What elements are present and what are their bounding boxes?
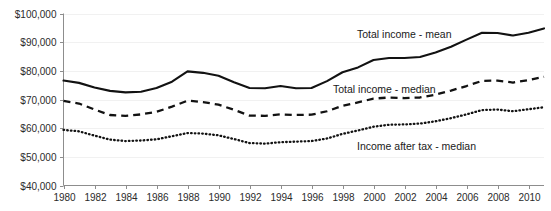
x-axis-tick-label: 1982 (84, 192, 107, 203)
series-label-1: Total income - median (333, 83, 436, 95)
x-axis-tick-label: 1980 (53, 192, 76, 203)
x-axis-tick-label: 2006 (456, 192, 479, 203)
x-axis-tick-label: 1990 (208, 192, 231, 203)
x-axis-tick-label: 2008 (487, 192, 510, 203)
x-axis-tick-label: 1994 (270, 192, 293, 203)
x-axis-tick-label: 1992 (239, 192, 262, 203)
chart-background (0, 0, 551, 211)
y-axis-tick-label: $100,000 (15, 9, 57, 20)
y-axis-tick-label: $70,000 (20, 95, 57, 106)
y-axis-tick-label: $80,000 (20, 66, 57, 77)
y-axis-tick-label: $50,000 (20, 152, 57, 163)
y-axis-tick-label: $40,000 (20, 181, 57, 192)
x-axis-tick-label: 2004 (425, 192, 448, 203)
x-axis-tick-label: 1998 (332, 192, 355, 203)
series-label-0: Total income - mean (357, 28, 452, 40)
y-axis-tick-label: $60,000 (20, 123, 57, 134)
chart-container: $100,000$90,000$80,000$70,000$60,000$50,… (0, 0, 551, 211)
income-trend-line-chart: $100,000$90,000$80,000$70,000$60,000$50,… (0, 0, 551, 211)
x-axis-tick-label: 2010 (518, 192, 541, 203)
x-axis-tick-label: 1984 (115, 192, 138, 203)
x-axis-tick-label: 1996 (301, 192, 324, 203)
x-axis-tick-label: 2000 (363, 192, 386, 203)
x-axis-tick-label: 2002 (394, 192, 417, 203)
x-axis-tick-label: 1986 (146, 192, 169, 203)
series-label-2: Income after tax - median (357, 140, 476, 152)
x-axis-tick-label: 1988 (177, 192, 200, 203)
y-axis-tick-label: $90,000 (20, 37, 57, 48)
